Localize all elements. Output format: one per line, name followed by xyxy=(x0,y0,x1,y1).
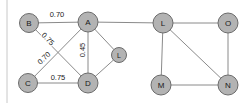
edge-weight-label: 0.45 xyxy=(78,43,87,58)
graph-node-c[interactable]: C xyxy=(19,74,38,93)
node-label: O xyxy=(225,19,231,28)
node-label: L xyxy=(117,52,121,59)
graph-node-o[interactable]: O xyxy=(218,13,238,33)
graph-node-b[interactable]: B xyxy=(20,14,39,33)
edge-b-a xyxy=(38,22,79,23)
edge-weight-label: 0.70 xyxy=(36,50,53,67)
node-label: A xyxy=(85,18,91,27)
edge-a-l1 xyxy=(95,29,115,50)
edge-weight-label: 0.75 xyxy=(51,73,66,82)
graph-svg: 0.700.700.750.750.700.700.750.750.450.45… xyxy=(0,0,252,107)
edge-l2-m xyxy=(161,32,162,75)
node-label: M xyxy=(158,81,165,90)
node-label: D xyxy=(85,79,91,88)
edge-a-l2 xyxy=(97,22,153,23)
node-label: C xyxy=(25,79,31,88)
graph-node-m[interactable]: M xyxy=(151,75,171,95)
node-label: B xyxy=(26,19,31,28)
edge-weight-label: 0.75 xyxy=(40,31,57,48)
node-label: L xyxy=(161,19,166,28)
edge-weight-label: 0.70 xyxy=(50,10,65,19)
graph-node-l2[interactable]: L xyxy=(153,13,173,33)
node-label: N xyxy=(225,81,231,90)
edge-l2-n xyxy=(170,30,221,79)
graph-node-d[interactable]: D xyxy=(78,73,98,93)
diagram-canvas: 0.700.700.750.750.700.700.750.750.450.45… xyxy=(0,0,252,107)
graph-node-n[interactable]: N xyxy=(218,75,238,95)
graph-node-l1[interactable]: L xyxy=(112,48,127,63)
graph-node-a[interactable]: A xyxy=(78,12,98,32)
edge-d-l1 xyxy=(95,60,114,77)
